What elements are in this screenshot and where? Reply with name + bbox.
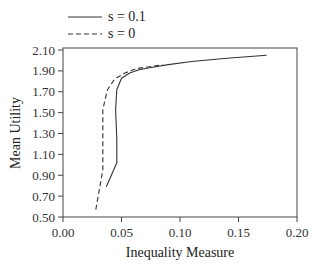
y-tick-label: 1.50 [32, 105, 55, 120]
y-tick-label: 0.50 [32, 210, 55, 225]
y-tick-label: 1.30 [32, 126, 55, 141]
legend-solid-label: s = 0.1 [108, 9, 146, 24]
x-tick-label: 0.20 [286, 225, 309, 240]
x-tick-label: 0.05 [110, 225, 133, 240]
legend: s = 0.1 s = 0 [68, 9, 146, 41]
series-lines [96, 55, 267, 210]
y-axis: 0.500.700.901.101.301.501.701.902.10 [32, 43, 63, 225]
y-tick-label: 1.10 [32, 147, 55, 162]
y-tick-label: 1.90 [32, 63, 55, 78]
x-tick-label: 0.00 [52, 225, 75, 240]
y-tick-label: 0.90 [32, 168, 55, 183]
x-axis-label: Inequality Measure [126, 245, 234, 260]
x-tick-label: 0.10 [169, 225, 192, 240]
y-tick-label: 2.10 [32, 43, 55, 58]
x-tick-label: 0.15 [227, 225, 250, 240]
y-axis-label: Mean Utility [8, 97, 23, 169]
x-axis: 0.000.050.100.150.20 [52, 217, 309, 240]
legend-dashed-label: s = 0 [108, 26, 135, 41]
y-tick-label: 1.70 [32, 84, 55, 99]
chart: s = 0.1 s = 0 0.500.700.901.101.301.501.… [0, 0, 316, 273]
plot-frame [63, 48, 297, 217]
y-tick-label: 0.70 [32, 189, 55, 204]
series-line-s0 [96, 65, 163, 210]
series-line-s01 [106, 55, 266, 187]
